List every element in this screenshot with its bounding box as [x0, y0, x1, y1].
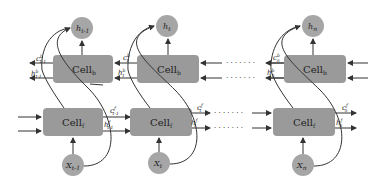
- forward-h-label: hfn: [336, 118, 344, 128]
- backward-h-label: hbt: [118, 68, 126, 78]
- forward-h-label: hft: [191, 118, 199, 128]
- ellipsis-top-2: · · · · · · ·: [226, 74, 255, 82]
- backward-c-label: cbt-1: [36, 54, 46, 64]
- ellipsis-bottom-2: · · · · · · ·: [214, 124, 243, 132]
- backward-h-label: hbt-1: [31, 69, 42, 79]
- forward-c-label: cfn: [342, 103, 349, 113]
- column-t-minus-1: ht-1 Cellb Cellf Xt-1 cbt-1: [18, 17, 119, 176]
- backward-h-label: hbn: [267, 68, 275, 78]
- forward-c-label: cft-1: [110, 106, 119, 116]
- forward-cell-label: Cellf: [150, 117, 173, 129]
- bilstm-diagram: ht-1 Cellb Cellf Xt-1 cbt-1: [0, 0, 378, 189]
- ellipsis-bottom-1: · · · · · · ·: [214, 109, 243, 117]
- forward-cell-label: Cellf: [293, 117, 316, 129]
- forward-h-label: hft-1: [104, 120, 113, 130]
- ellipsis-top-1: · · · · · · ·: [226, 59, 255, 67]
- forward-cell-label: Cellf: [62, 117, 85, 129]
- forward-c-label: cft: [197, 103, 204, 113]
- backward-c-label: cbn: [273, 53, 280, 63]
- column-t: ht Cellb Cellf Xt cbt hbt cft: [118, 15, 222, 174]
- column-n: hn Cellb Cellf Xn cbn hbn: [266, 15, 368, 176]
